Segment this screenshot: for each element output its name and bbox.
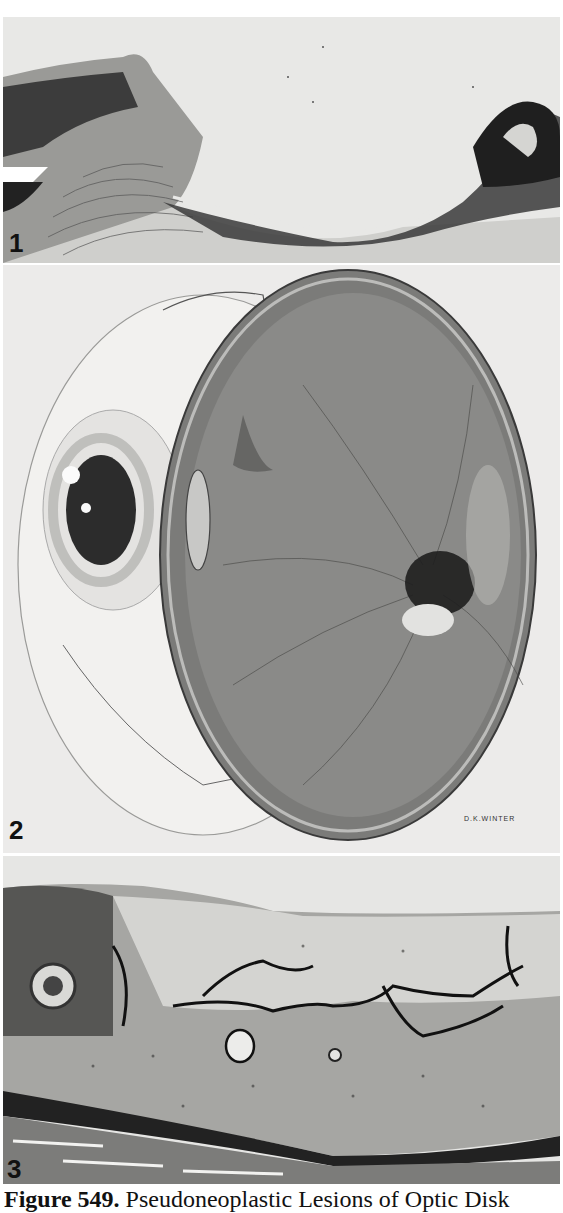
figure-caption: Figure 549. Pseudoneoplastic Lesions of … xyxy=(4,1186,510,1213)
panel-label-3: 3 xyxy=(7,1156,21,1182)
figure-panel-3: 3 xyxy=(3,856,560,1184)
figure-panel-1: 1 xyxy=(3,17,560,263)
figure-number: Figure 549. xyxy=(4,1186,120,1212)
figure-panel-2: D.K.WINTER 2 xyxy=(3,265,560,853)
panel-label-2: 2 xyxy=(9,817,23,843)
figure-title: Pseudoneoplastic Lesions of Optic Disk xyxy=(126,1186,510,1212)
artist-signature: D.K.WINTER xyxy=(464,815,515,822)
histology-section-1 xyxy=(3,17,560,263)
histology-section-3 xyxy=(3,856,560,1184)
eyeball-drawing xyxy=(3,265,560,853)
panel-label-1: 1 xyxy=(9,230,23,256)
